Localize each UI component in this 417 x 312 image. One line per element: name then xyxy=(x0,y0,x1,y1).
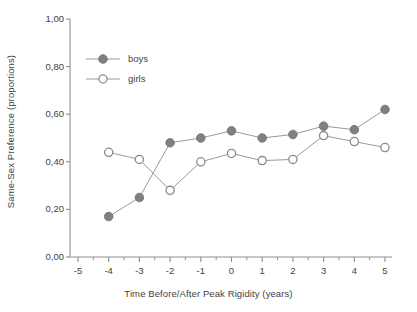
data-point-boys xyxy=(135,193,144,202)
data-point-girls xyxy=(289,155,297,163)
y-tick-label: 0,00 xyxy=(22,251,64,262)
y-axis-title: Same-Sex Preference (proportions) xyxy=(6,54,17,207)
data-point-boys xyxy=(166,138,175,147)
x-tick-label: 2 xyxy=(279,265,307,276)
y-tick-label: 0,40 xyxy=(22,156,64,167)
x-tick-label: 1 xyxy=(248,265,276,276)
legend-marker-boys xyxy=(99,55,108,64)
y-tick-label: 0,80 xyxy=(22,61,64,72)
y-tick-label: 1,00 xyxy=(22,13,64,24)
legend-label-girls: girls xyxy=(128,73,145,84)
figure-container: Same-Sex Preference (proportions) Time B… xyxy=(0,0,417,312)
data-point-girls xyxy=(320,132,328,140)
data-point-boys xyxy=(197,134,206,143)
data-point-boys xyxy=(227,127,236,136)
data-point-girls xyxy=(227,149,235,157)
legend-marker-girls xyxy=(99,75,107,83)
data-point-girls xyxy=(105,148,113,156)
legend-label-boys: boys xyxy=(128,53,148,64)
data-point-boys xyxy=(350,125,359,134)
x-tick-label: 5 xyxy=(371,265,399,276)
series-line-girls xyxy=(109,136,385,191)
x-tick-label: -4 xyxy=(95,265,123,276)
data-point-girls xyxy=(197,158,205,166)
y-axis-title-container: Same-Sex Preference (proportions) xyxy=(0,0,22,262)
data-point-boys xyxy=(104,212,113,221)
y-tick-label: 0,60 xyxy=(22,108,64,119)
data-point-girls xyxy=(381,143,389,151)
data-point-girls xyxy=(350,137,358,145)
x-tick-label: 3 xyxy=(310,265,338,276)
y-tick-label: 0,20 xyxy=(22,203,64,214)
x-tick-label: 4 xyxy=(340,265,368,276)
x-tick-label: -3 xyxy=(125,265,153,276)
data-point-boys xyxy=(319,122,328,131)
data-point-girls xyxy=(166,186,174,194)
data-point-girls xyxy=(258,157,266,165)
x-tick-label: -1 xyxy=(187,265,215,276)
x-tick-label: 0 xyxy=(218,265,246,276)
data-point-boys xyxy=(289,130,298,139)
data-point-girls xyxy=(135,155,143,163)
x-tick-label: -2 xyxy=(156,265,184,276)
data-point-boys xyxy=(381,105,390,114)
series-line-boys xyxy=(109,109,385,216)
x-tick-label: -5 xyxy=(64,265,92,276)
data-point-boys xyxy=(258,134,267,143)
x-axis-title: Time Before/After Peak Rigidity (years) xyxy=(0,288,417,299)
